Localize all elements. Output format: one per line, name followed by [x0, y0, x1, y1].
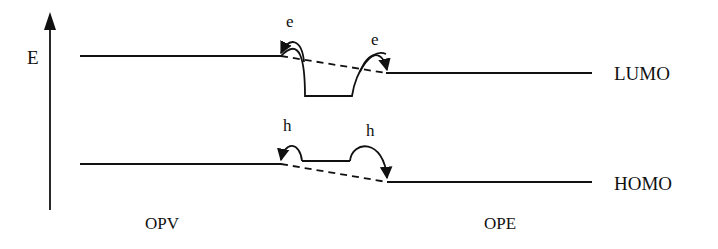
ope-label: OPE [484, 214, 516, 233]
lumo-interface-well [281, 49, 386, 96]
lumo-levels [80, 49, 592, 96]
energy-axis-label: E [27, 47, 39, 68]
energy-level-diagram: E e e LUMO h h HOMO OPV OPE [0, 0, 718, 249]
homo-levels [80, 161, 592, 182]
hole-label-2: h [366, 121, 375, 140]
lumo-label: LUMO [614, 63, 670, 84]
axis-arrow-icon [44, 12, 56, 30]
opv-label: OPV [145, 214, 180, 233]
homo-dashed-offset [281, 164, 387, 182]
hole-label-1: h [283, 116, 292, 135]
homo-label: HOMO [614, 173, 672, 194]
hole-arrow-icon-1 [281, 146, 302, 161]
electron-label-1: e [286, 12, 294, 31]
electron-label-2: e [371, 30, 379, 49]
energy-axis [44, 12, 56, 210]
hole-arrow-icon-2 [350, 146, 387, 178]
